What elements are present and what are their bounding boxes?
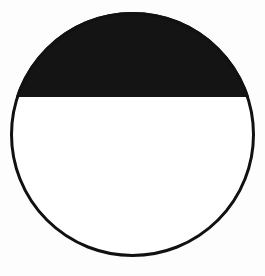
circle-segment-diagram — [0, 0, 265, 276]
diagram-canvas — [0, 0, 265, 276]
